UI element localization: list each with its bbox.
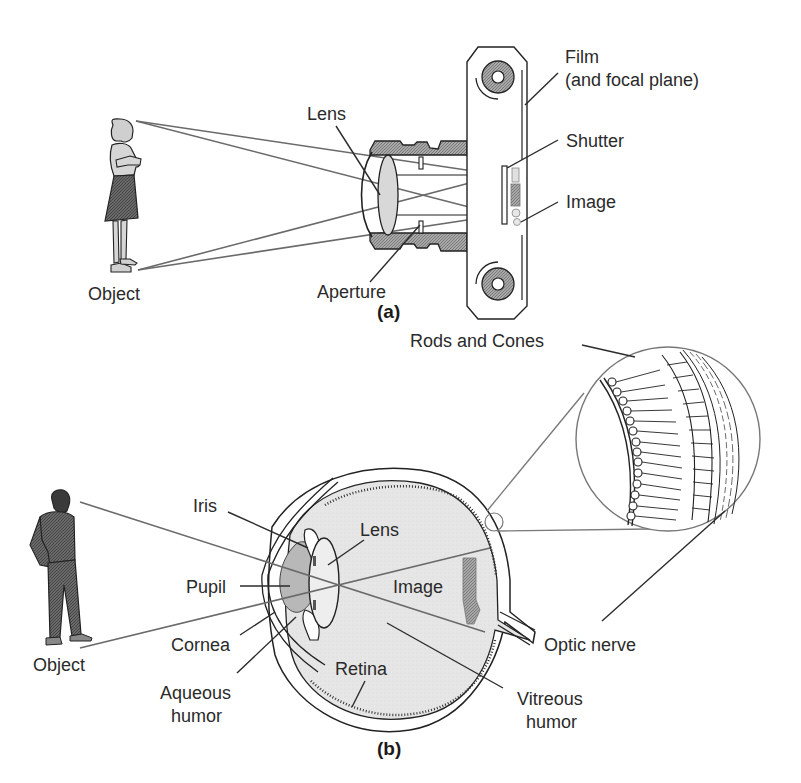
woman-figure-icon (105, 119, 141, 272)
label-shutter: Shutter (566, 131, 624, 151)
diagram-canvas: Object Lens Aperture Film (and focal pla… (0, 0, 801, 783)
camera-body (467, 47, 527, 319)
label-film: Film (565, 47, 599, 67)
label-aqueous: Aqueous (160, 683, 231, 703)
panel-a-camera: Object Lens Aperture Film (and focal pla… (88, 47, 699, 322)
man-figure-icon (30, 490, 92, 645)
label-image-a: Image (566, 192, 616, 212)
label-rods-cones: Rods and Cones (410, 331, 544, 351)
label-aqueous-humor: humor (171, 706, 222, 726)
label-object-b: Object (33, 655, 85, 675)
label-focal-plane: (and focal plane) (565, 70, 699, 90)
label-optic-nerve: Optic nerve (544, 635, 636, 655)
label-image-b: Image (393, 577, 443, 597)
rods-cones-inset (485, 347, 760, 531)
label-retina: Retina (335, 659, 388, 679)
label-iris: Iris (193, 496, 217, 516)
label-pupil: Pupil (186, 577, 226, 597)
label-object-a: Object (88, 284, 140, 304)
panel-b-eye: Rods and Cones Iris Lens Pupil Image Cor… (30, 331, 760, 759)
iris-edge-mark (313, 600, 316, 610)
label-cornea: Cornea (171, 635, 231, 655)
caption-b: (b) (377, 738, 401, 759)
label-lens-a: Lens (307, 104, 346, 124)
iris-edge-mark (313, 556, 316, 566)
caption-a: (a) (377, 301, 400, 322)
label-aperture: Aperture (317, 282, 386, 302)
label-vitreous-humor: humor (526, 712, 577, 732)
label-vitreous: Vitreous (517, 689, 583, 709)
label-lens-b: Lens (360, 520, 399, 540)
